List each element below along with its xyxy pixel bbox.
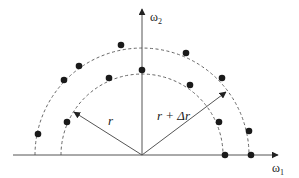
- sample-dot: [118, 42, 125, 49]
- sample-dot: [61, 77, 68, 84]
- sample-dot: [139, 67, 146, 74]
- sample-dot: [222, 152, 229, 159]
- sample-dot: [64, 119, 71, 126]
- sample-dot: [216, 119, 223, 126]
- vector-r-plus-dr: [142, 92, 226, 155]
- inner-sample-points: [64, 67, 229, 159]
- sample-dot: [248, 152, 255, 159]
- vector-r-plus-dr-label: r + Δr: [157, 108, 191, 123]
- sample-dot: [183, 50, 190, 57]
- vector-r-label: r: [108, 113, 114, 128]
- sample-dot: [35, 131, 42, 138]
- x-axis-label: ω1: [272, 161, 284, 177]
- y-axis-label: ω2: [150, 10, 162, 26]
- sample-dot: [246, 128, 253, 135]
- polar-diagram: ω2 ω1 r r + Δr: [0, 0, 299, 178]
- sample-dot: [219, 75, 226, 82]
- sample-dot: [76, 63, 83, 70]
- outer-sample-points: [35, 42, 255, 159]
- sample-dot: [187, 82, 194, 89]
- sample-dot: [106, 75, 113, 82]
